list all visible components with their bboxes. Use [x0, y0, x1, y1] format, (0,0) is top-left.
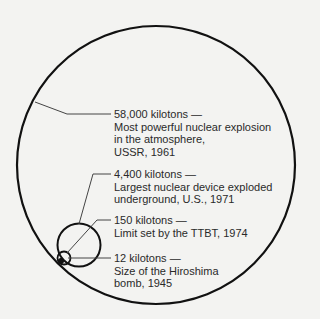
label-150kt: 150 kilotons — Limit set by the TTBT, 19… — [114, 214, 248, 239]
label-value: 150 kilotons — — [114, 214, 248, 227]
leader-line-58000kt — [35, 102, 111, 114]
label-line: underground, U.S., 1971 — [114, 193, 272, 206]
circle-12kt — [58, 258, 63, 263]
label-line: Most powerful nuclear explosion — [114, 121, 271, 134]
label-line: USSR, 1961 — [114, 146, 271, 159]
label-line: Limit set by the TTBT, 1974 — [114, 227, 248, 240]
label-4400kt: 4,400 kilotons — Largest nuclear device … — [114, 168, 272, 206]
label-line: bomb, 1945 — [114, 277, 219, 290]
label-value: 4,400 kilotons — — [114, 168, 272, 181]
label-58000kt: 58,000 kilotons — Most powerful nuclear … — [114, 108, 271, 158]
label-line: Size of the Hiroshima — [114, 265, 219, 278]
label-line: Largest nuclear device exploded — [114, 181, 272, 194]
label-value: 58,000 kilotons — — [114, 108, 271, 121]
label-12kt: 12 kilotons — Size of the Hiroshima bomb… — [114, 252, 219, 290]
label-line: in the atmosphere, — [114, 133, 271, 146]
label-value: 12 kilotons — — [114, 252, 219, 265]
leader-line-4400kt — [79, 174, 111, 224]
